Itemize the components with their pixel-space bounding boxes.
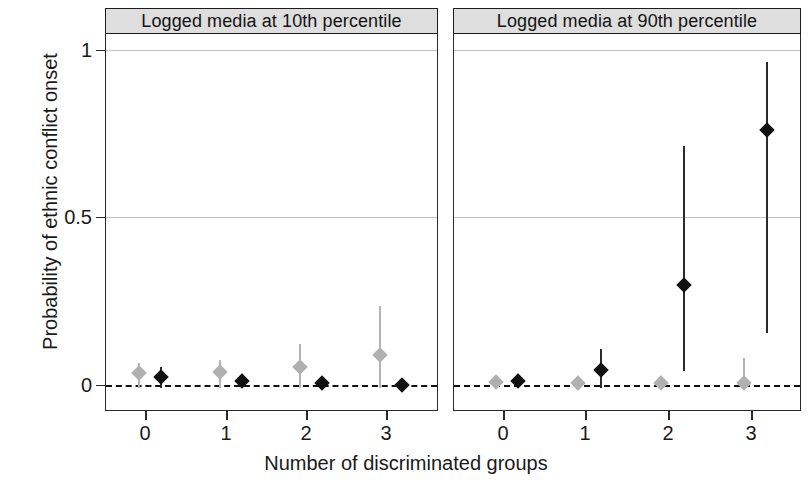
ci-dark-3 — [766, 62, 768, 333]
gridline-1 — [106, 50, 437, 51]
x-tick-mark-right-2 — [668, 411, 670, 420]
x-tick-label-right-3: 3 — [745, 422, 756, 445]
x-tick-label-right-0: 0 — [497, 422, 508, 445]
x-tick-label-right-1: 1 — [579, 422, 590, 445]
point-light-3 — [736, 375, 752, 391]
y-tick-label-0-5: 0.5 — [64, 206, 92, 229]
point-dark-0 — [153, 369, 169, 385]
y-tick-mark-0 — [96, 385, 105, 386]
point-light-1 — [570, 375, 586, 391]
x-axis-label: Number of discriminated groups — [0, 452, 812, 475]
panel-left-title: Logged media at 10th percentile — [141, 11, 401, 32]
x-tick-label-left-3: 3 — [380, 422, 391, 445]
panel-right-title: Logged media at 90th percentile — [497, 11, 757, 32]
point-light-2 — [292, 359, 308, 375]
x-tick-mark-left-0 — [145, 411, 147, 420]
x-tick-label-left-0: 0 — [139, 422, 150, 445]
y-axis-ticks: 1 0.5 0 — [40, 0, 92, 493]
point-dark-3 — [394, 377, 410, 393]
gridline-1 — [454, 50, 800, 51]
zero-reference-line — [106, 385, 437, 387]
y-tick-label-0: 0 — [81, 374, 92, 397]
point-light-3 — [372, 347, 388, 363]
panel-right-plot — [453, 34, 801, 411]
x-tick-label-right-2: 2 — [662, 422, 673, 445]
point-dark-1 — [593, 362, 609, 378]
panel-left-plot — [105, 34, 438, 411]
point-light-0 — [488, 374, 504, 390]
gridline-0-5 — [106, 217, 437, 218]
ci-dark-2 — [683, 146, 685, 371]
chart-root: Probability of ethnic conflict onset 1 0… — [0, 0, 812, 493]
panel-right-strip: Logged media at 90th percentile — [453, 8, 801, 34]
y-tick-label-1: 1 — [81, 39, 92, 62]
point-dark-2 — [676, 277, 692, 293]
x-tick-label-left-2: 2 — [300, 422, 311, 445]
x-tick-mark-right-0 — [503, 411, 505, 420]
x-tick-mark-left-1 — [226, 411, 228, 420]
x-tick-mark-right-3 — [751, 411, 753, 420]
point-light-2 — [653, 375, 669, 391]
x-tick-mark-right-1 — [585, 411, 587, 420]
point-dark-2 — [314, 375, 330, 391]
x-tick-mark-left-2 — [306, 411, 308, 420]
gridline-0-5 — [454, 217, 800, 218]
point-dark-3 — [759, 122, 775, 138]
x-tick-label-left-1: 1 — [220, 422, 231, 445]
point-light-0 — [131, 365, 147, 381]
panel-left-strip: Logged media at 10th percentile — [105, 8, 438, 34]
x-tick-mark-left-3 — [386, 411, 388, 420]
y-tick-mark-0-5 — [96, 217, 105, 218]
point-light-1 — [212, 364, 228, 380]
y-tick-mark-1 — [96, 50, 105, 51]
